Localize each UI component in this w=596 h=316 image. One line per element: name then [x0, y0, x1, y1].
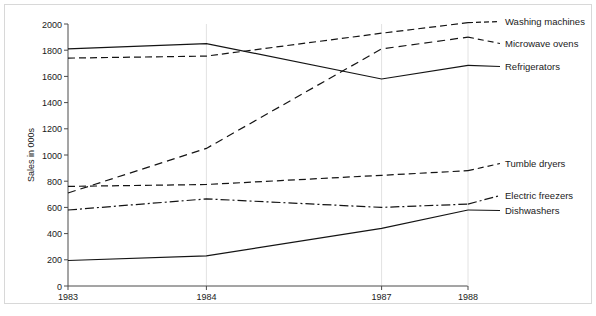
leader-line-washing-machines	[468, 22, 500, 23]
xtick-label-1987: 1987	[372, 292, 392, 302]
y-axis-ticks	[64, 24, 68, 286]
ytick-label-1000: 1000	[42, 151, 62, 161]
series-line-electric-freezers	[68, 199, 468, 210]
xtick-label-1988: 1988	[458, 292, 478, 302]
x-axis-ticks	[68, 286, 468, 290]
series-line-washing-machines	[68, 23, 468, 58]
series-label-washing-machines: Washing machines	[505, 16, 585, 27]
ytick-label-600: 600	[47, 203, 62, 213]
leader-line-tumble-dryers	[468, 164, 500, 171]
xtick-label-1983: 1983	[58, 292, 78, 302]
series-label-refrigerators: Refrigerators	[505, 61, 560, 72]
xtick-label-1984: 1984	[196, 292, 216, 302]
line-chart: 2000 1800 1600 1400 1200 1000 800 600 40…	[0, 0, 596, 316]
series-label-tumble-dryers: Tumble dryers	[505, 158, 566, 169]
ytick-label-1600: 1600	[42, 72, 62, 82]
series-line-refrigerators	[68, 44, 468, 79]
series-label-microwave-ovens: Microwave ovens	[505, 38, 579, 49]
series-label-electric-freezers: Electric freezers	[505, 190, 573, 201]
leader-line-electric-freezers	[468, 196, 500, 205]
ytick-label-1400: 1400	[42, 98, 62, 108]
series-line-tumble-dryers	[68, 171, 468, 187]
series-line-microwave-ovens	[68, 37, 468, 193]
leader-line-refrigerators	[468, 65, 500, 66]
y-axis-title: Sales in 000s	[26, 127, 36, 182]
series-line-dishwashers	[68, 210, 468, 261]
ytick-label-1800: 1800	[42, 46, 62, 56]
leader-line-dishwashers	[468, 210, 500, 211]
ytick-label-1200: 1200	[42, 124, 62, 134]
chart-figure: 2000 1800 1600 1400 1200 1000 800 600 40…	[0, 0, 596, 316]
series-label-dishwashers: Dishwashers	[505, 205, 560, 216]
ytick-label-400: 400	[47, 229, 62, 239]
ytick-label-800: 800	[47, 177, 62, 187]
ytick-label-2000: 2000	[42, 20, 62, 30]
ytick-label-200: 200	[47, 255, 62, 265]
ytick-label-0: 0	[57, 282, 62, 292]
leader-line-microwave-ovens	[468, 37, 500, 43]
